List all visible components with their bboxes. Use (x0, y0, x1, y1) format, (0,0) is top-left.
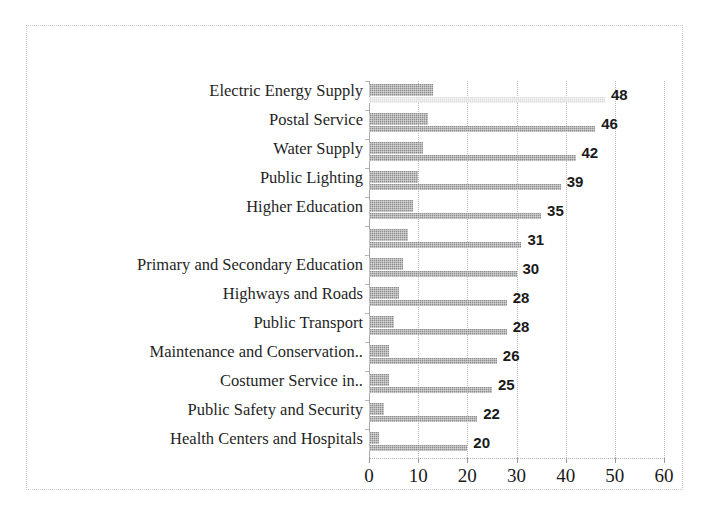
bar-series-1 (369, 345, 389, 357)
bar-value-label: 48 (611, 87, 628, 102)
bar-series-2 (369, 184, 561, 190)
bar-value-label: 26 (503, 348, 520, 363)
bar-value-label: 42 (582, 145, 599, 160)
gridline-60 (664, 81, 665, 458)
x-axis-tick-50 (615, 458, 616, 463)
x-axis-tick-label-40: 40 (556, 466, 575, 485)
bar-series-2 (369, 358, 497, 364)
category-label: Highways and Roads (43, 286, 363, 303)
y-axis-tick (365, 255, 369, 256)
x-axis-tick-label-10: 10 (409, 466, 428, 485)
category-label: Electric Energy Supply (43, 83, 363, 100)
bar-row: 31 (369, 226, 664, 255)
y-axis-tick (365, 197, 369, 198)
bar-value-label: 22 (483, 406, 500, 421)
plot-area: 48464239353130282826252220 (369, 81, 664, 458)
bar-value-label: 35 (547, 203, 564, 218)
x-axis-tick-10 (418, 458, 419, 463)
bar-series-1 (369, 142, 423, 154)
y-axis-tick (365, 81, 369, 82)
bar-row: 42 (369, 139, 664, 168)
bar-row: 30 (369, 255, 664, 284)
bar-row: 28 (369, 284, 664, 313)
bar-series-1 (369, 229, 408, 241)
bar-series-2 (369, 242, 521, 248)
category-label: Water Supply (43, 141, 363, 158)
category-label: Health Centers and Hospitals (43, 431, 363, 448)
category-label: Postal Service (43, 112, 363, 129)
bar-series-1 (369, 258, 403, 270)
y-axis-tick (365, 168, 369, 169)
bar-series-1 (369, 287, 399, 299)
bar-row: 48 (369, 81, 664, 110)
bar-value-label: 46 (601, 116, 618, 131)
y-axis-tick (365, 400, 369, 401)
bar-series-2 (369, 213, 541, 219)
bar-series-2 (369, 300, 507, 306)
category-label: Public Lighting (43, 170, 363, 187)
y-axis-tick (365, 110, 369, 111)
bar-row: 46 (369, 110, 664, 139)
x-axis-tick-30 (517, 458, 518, 463)
bar-series-2 (369, 416, 477, 422)
bar-series-2 (369, 445, 467, 451)
category-label: Public Transport (43, 315, 363, 332)
bar-value-label: 39 (567, 174, 584, 189)
bar-value-label: 31 (527, 232, 544, 247)
bar-series-1 (369, 113, 428, 125)
bar-row: 22 (369, 400, 664, 429)
y-axis-tick (365, 139, 369, 140)
bar-value-label: 30 (523, 261, 540, 276)
bar-row: 25 (369, 371, 664, 400)
x-axis-tick-20 (467, 458, 468, 463)
bar-row: 20 (369, 429, 664, 458)
chart-frame: Electric Energy SupplyPostal ServiceWate… (26, 25, 683, 490)
bar-series-1 (369, 374, 389, 386)
x-axis-tick-0 (369, 458, 370, 463)
bar-series-2 (369, 155, 576, 161)
y-axis-tick (365, 226, 369, 227)
bar-value-label: 20 (473, 435, 490, 450)
y-axis-tick (365, 371, 369, 372)
x-axis-tick-label-0: 0 (364, 466, 374, 485)
bar-value-label: 28 (513, 290, 530, 305)
x-axis-tick-60 (664, 458, 665, 463)
bar-row: 26 (369, 342, 664, 371)
x-axis-tick-40 (566, 458, 567, 463)
y-axis-tick (365, 429, 369, 430)
x-axis-tick-label-30: 30 (507, 466, 526, 485)
bar-row: 39 (369, 168, 664, 197)
bar-row: 35 (369, 197, 664, 226)
x-axis-tick-label-50: 50 (605, 466, 624, 485)
bar-series-2 (369, 387, 492, 393)
category-label: Higher Education (43, 199, 363, 216)
bar-series-1 (369, 316, 394, 328)
bar-series-2 (369, 329, 507, 335)
category-label: Maintenance and Conservation.. (43, 344, 363, 361)
bar-series-2 (369, 126, 595, 132)
bar-value-label: 25 (498, 377, 515, 392)
category-label: Primary and Secondary Education (43, 257, 363, 274)
bar-series-1 (369, 171, 418, 183)
bar-series-2 (369, 271, 517, 277)
y-axis-tick (365, 313, 369, 314)
category-label: Public Safety and Security (43, 402, 363, 419)
bar-value-label: 28 (513, 319, 530, 334)
bar-series-1 (369, 403, 384, 415)
category-axis-labels: Electric Energy SupplyPostal ServiceWate… (27, 81, 363, 458)
bar-row: 28 (369, 313, 664, 342)
bar-series-1 (369, 84, 433, 96)
x-axis-tick-label-60: 60 (655, 466, 674, 485)
bar-series-2 (369, 97, 605, 103)
bar-series-1 (369, 432, 379, 444)
y-axis-tick (365, 342, 369, 343)
bar-series-1 (369, 200, 413, 212)
category-label: Costumer Service in.. (43, 373, 363, 390)
x-axis-tick-label-20: 20 (458, 466, 477, 485)
y-axis-tick (365, 284, 369, 285)
